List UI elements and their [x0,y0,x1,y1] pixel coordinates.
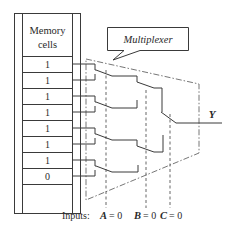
memory-header-line1: Memory [29,25,66,36]
memory-cell-value: 1 [45,139,50,150]
multiplexer-label: Multiplexer [123,34,174,45]
inputs-legend: Inputs: A = 0 B = 0 C = 0 [62,210,182,221]
memory-cell-value: 0 [45,171,50,182]
memory-cell-value: 1 [45,155,50,166]
output-label-y: Y [209,108,217,120]
memory-cell-value: 1 [45,107,50,118]
input-b-name: B [133,210,141,221]
switch-stage-a [73,64,139,176]
input-a-name: A [99,210,107,221]
memory-cell-value: 1 [45,75,50,86]
input-c-value: = 0 [169,210,182,221]
inputs-prefix: Inputs: [62,210,90,221]
memory-cell-value: 1 [45,91,50,102]
memory-cell-value: 1 [45,123,50,134]
memory-header-line2: cells [38,39,57,50]
memory-cell-value: 1 [45,59,50,70]
input-a-value: = 0 [109,210,122,221]
multiplexer-diagram: Memory cells 1 1 1 1 1 1 1 0 Multiplexer [0,0,232,231]
multiplexer-boundary [86,59,199,200]
select-lines [106,70,170,208]
switch-stage-b [137,76,163,152]
input-b-value: = 0 [143,210,156,221]
input-c-name: C [160,210,168,221]
multiplexer-callout: Multiplexer [108,28,189,61]
memory-block: Memory cells 1 1 1 1 1 1 1 0 [15,14,81,214]
